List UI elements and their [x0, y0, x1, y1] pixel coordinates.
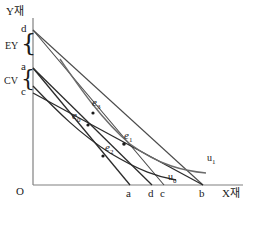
x-tick-d: d [148, 188, 154, 199]
equilibrium-dot-e0 [86, 123, 89, 126]
budget-line-a-a [33, 68, 130, 185]
point-label-e1-sub: 1 [129, 136, 133, 144]
x-axis-label: X재 [222, 188, 240, 199]
curve-label-u1-sub: 1 [212, 158, 216, 166]
x-tick-c: c [160, 188, 165, 199]
figure-canvas: Y재 X재 O d a c a d c b EY { CV { e0 e1 e2… [0, 0, 263, 226]
curve-label-u0: u0 [168, 172, 177, 185]
point-label-e2-sub: 2 [110, 148, 114, 156]
origin-label: O [16, 186, 24, 197]
point-label-e2: e2 [105, 142, 113, 156]
indifference-curve-u0 [33, 86, 176, 180]
y-axis-label: Y재 [6, 6, 24, 17]
point-label-e3: e3 [92, 97, 100, 111]
bracket-label-cv: CV [4, 76, 18, 86]
bracket-brace-ey: { [21, 31, 36, 55]
equilibrium-dot-e3 [91, 111, 94, 114]
bracket-brace-cv: { [21, 68, 35, 90]
point-label-e0-sub: 0 [77, 116, 81, 124]
point-label-e0: e0 [72, 110, 80, 124]
x-tick-a: a [126, 188, 131, 199]
point-label-e1: e1 [124, 130, 132, 144]
curve-label-u0-sub: 0 [173, 177, 177, 185]
curve-label-u1: u1 [207, 153, 216, 166]
point-label-e3-sub: 3 [97, 103, 101, 111]
bracket-label-ey: EY [5, 41, 18, 51]
x-tick-b: b [199, 188, 205, 199]
budget-line-a-d [33, 68, 152, 185]
